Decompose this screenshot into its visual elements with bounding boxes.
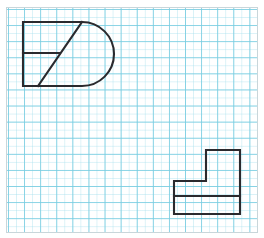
worksheet-canvas — [0, 0, 264, 238]
graph-paper-grid — [6, 7, 258, 233]
